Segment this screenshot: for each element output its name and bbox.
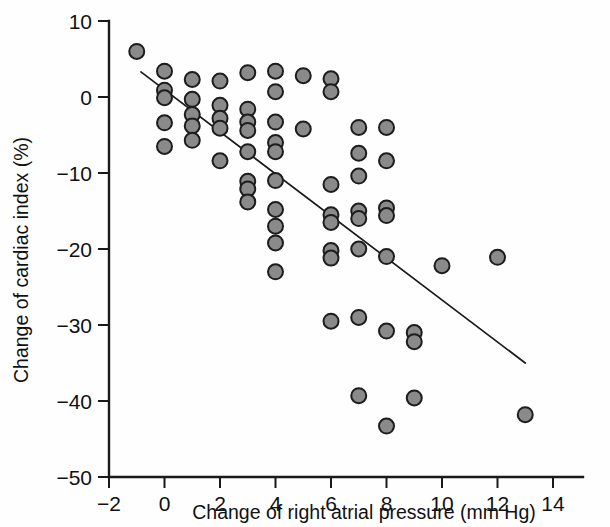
data-point: [240, 194, 255, 209]
data-point: [213, 74, 228, 89]
data-point: [351, 310, 366, 325]
data-point: [268, 202, 283, 217]
data-point: [185, 133, 200, 148]
y-axis-tick-label: 10: [69, 10, 92, 33]
x-axis-tick-label: 0: [159, 492, 171, 515]
data-point: [185, 92, 200, 107]
x-axis-tick-label: −2: [97, 492, 121, 515]
data-point: [268, 235, 283, 250]
data-point: [157, 90, 172, 105]
data-point: [379, 419, 394, 434]
data-point: [324, 314, 339, 329]
data-point: [268, 173, 283, 188]
y-axis-tick-label: −30: [56, 314, 92, 337]
data-point: [324, 177, 339, 192]
data-point: [324, 84, 339, 99]
y-axis-tick-label: −40: [56, 390, 92, 413]
data-point: [351, 169, 366, 184]
data-point: [379, 208, 394, 223]
data-point: [240, 123, 255, 138]
data-point: [490, 250, 505, 265]
x-axis-tick-label: 14: [541, 492, 565, 515]
data-point: [240, 144, 255, 159]
data-point: [129, 44, 144, 59]
data-point: [518, 407, 533, 422]
data-point: [296, 68, 311, 83]
data-point: [379, 153, 394, 168]
data-point: [351, 146, 366, 161]
data-point: [435, 258, 450, 273]
scatter-plot-figure: 100−10−20−30−40−50−202468101214Change of…: [0, 0, 610, 527]
data-point: [268, 64, 283, 79]
data-point: [157, 115, 172, 130]
data-point: [379, 324, 394, 339]
data-point: [213, 153, 228, 168]
y-axis-tick-label: 0: [80, 86, 92, 109]
x-axis-title: Change of right atrial pressure (mm Hg): [192, 501, 536, 523]
data-point: [268, 84, 283, 99]
data-point: [157, 64, 172, 79]
data-point: [268, 264, 283, 279]
data-point: [379, 120, 394, 135]
data-point: [351, 242, 366, 257]
y-axis-tick-label: −20: [56, 238, 92, 261]
data-point: [324, 215, 339, 230]
data-point: [379, 249, 394, 264]
data-point: [407, 390, 422, 405]
data-point: [185, 118, 200, 133]
data-point: [296, 121, 311, 136]
data-point: [351, 211, 366, 226]
y-axis-title: Change of cardiac index (%): [10, 137, 32, 383]
data-point: [157, 139, 172, 154]
plot-canvas: 100−10−20−30−40−50−202468101214Change of…: [0, 0, 610, 527]
data-point: [213, 121, 228, 136]
data-point: [268, 115, 283, 130]
data-point: [240, 65, 255, 80]
data-point: [268, 144, 283, 159]
y-axis-tick-label: −50: [56, 466, 92, 489]
y-axis-tick-label: −10: [56, 162, 92, 185]
data-point: [324, 251, 339, 266]
data-point: [268, 219, 283, 234]
data-point: [185, 72, 200, 87]
data-point: [351, 388, 366, 403]
data-point: [407, 334, 422, 349]
data-point: [351, 120, 366, 135]
